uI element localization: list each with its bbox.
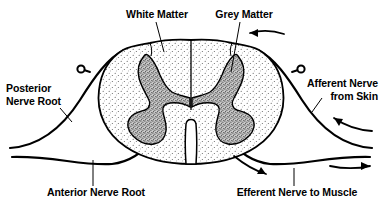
label-afferent-nerve-line2: from Skin <box>330 90 378 102</box>
label-efferent-nerve: Efferent Nerve to Muscle <box>237 186 358 198</box>
dorsal-root-ganglion-right <box>297 65 304 72</box>
spinal-cord-cross-section <box>98 40 283 164</box>
label-anterior-nerve-root: Anterior Nerve Root <box>47 186 145 198</box>
spinal-cord-diagram: White Matter Grey Matter Posterior Nerve… <box>0 0 382 206</box>
afferent-nerve-leader <box>312 98 322 112</box>
label-white-matter: White Matter <box>126 8 188 20</box>
efferent-outflow-right-arrowhead <box>361 162 370 170</box>
label-posterior-nerve-root-line2: Nerve Root <box>6 95 62 107</box>
label-posterior-nerve-root-line1: Posterior <box>6 82 51 94</box>
label-grey-matter: Grey Matter <box>215 8 272 20</box>
diagram-root: White Matter Grey Matter Posterior Nerve… <box>0 0 382 206</box>
afferent-inflow-top-right-arrowhead <box>250 29 258 37</box>
anterior-median-fissure <box>185 120 197 165</box>
label-afferent-nerve-line1: Afferent Nerve <box>307 77 378 89</box>
dorsal-root-ganglion-left <box>77 65 84 72</box>
